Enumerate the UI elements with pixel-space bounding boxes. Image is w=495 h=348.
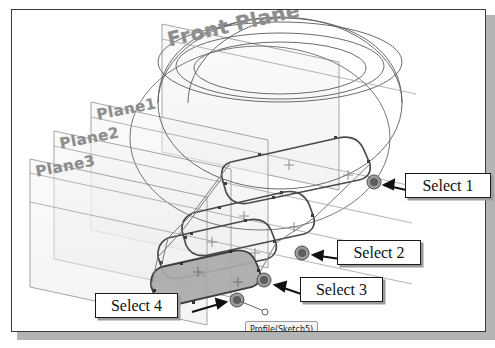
profile-tooltip: Profile(Sketch5) — [245, 321, 318, 331]
tooltip-leader-line — [237, 300, 268, 315]
cad-viewport-frame: Front Plane Plane1 Plane2 Plane3 Profile… — [11, 9, 486, 332]
callout-select-2: Select 2 — [337, 240, 421, 265]
callout-select-3: Select 3 — [300, 277, 383, 302]
selection-marker-1[interactable] — [367, 175, 381, 189]
screenshot-stage: Front Plane Plane1 Plane2 Plane3 Profile… — [0, 0, 495, 348]
callout-select-1: Select 1 — [405, 173, 491, 198]
selection-marker-2[interactable] — [295, 246, 309, 260]
callout-select-4: Select 4 — [95, 293, 178, 318]
selection-marker-3[interactable] — [257, 273, 271, 287]
cad-canvas[interactable]: Front Plane Plane1 Plane2 Plane3 Profile… — [12, 10, 485, 331]
